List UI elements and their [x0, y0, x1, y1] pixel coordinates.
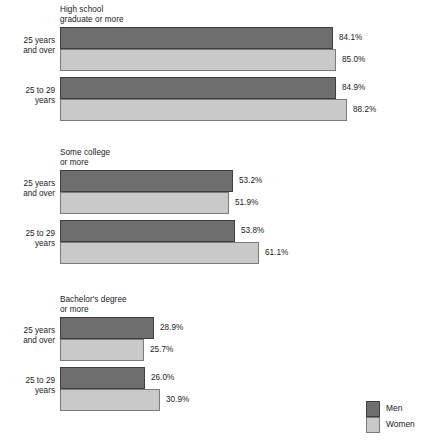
bar-value-label: 61.1%	[265, 247, 288, 258]
bar-value-label: 53.8%	[241, 225, 264, 236]
bar-value-label: 85.0%	[342, 54, 365, 65]
bar-track: 85.0%	[60, 49, 385, 71]
legend-swatch-women	[366, 417, 380, 433]
bar-track: 30.9%	[60, 389, 385, 411]
bar-men	[60, 317, 154, 339]
bar-men	[60, 220, 235, 242]
row-category-label: 25 to 29 years	[0, 229, 55, 248]
bar-value-label: 25.7%	[150, 344, 173, 355]
bar-value-label: 28.9%	[160, 322, 183, 333]
group-title: Bachelor's degree or more	[60, 295, 127, 315]
row-category-label: 25 years and over	[0, 179, 55, 198]
bar-men	[60, 170, 233, 192]
bar-women	[60, 389, 160, 411]
chart-row: 25 years and over53.2%51.9%	[0, 170, 432, 215]
chart-row: 25 years and over84.1%85.0%	[0, 27, 432, 72]
row-category-label: 25 years and over	[0, 326, 55, 345]
bar-value-label: 26.0%	[151, 372, 174, 383]
bar-women	[60, 99, 347, 121]
row-category-label: 25 to 29 years	[0, 376, 55, 395]
group-title: High school graduate or more	[60, 5, 124, 25]
group-title: Some college or more	[60, 148, 110, 168]
bar-value-label: 84.1%	[339, 32, 362, 43]
bar-track: 53.2%	[60, 170, 385, 192]
bar-track: 53.8%	[60, 220, 385, 242]
row-category-label: 25 years and over	[0, 36, 55, 55]
bar-track: 88.2%	[60, 99, 385, 121]
chart-legend: Men Women	[366, 401, 430, 433]
bar-track: 25.7%	[60, 339, 385, 361]
bar-women	[60, 242, 259, 264]
legend-swatch-men	[366, 401, 380, 417]
bar-women	[60, 192, 229, 214]
bar-track: 84.9%	[60, 77, 385, 99]
bar-men	[60, 77, 336, 99]
chart-row: 25 years and over28.9%25.7%	[0, 317, 432, 362]
bar-track: 61.1%	[60, 242, 385, 264]
bar-value-label: 88.2%	[353, 104, 376, 115]
bar-track: 84.1%	[60, 27, 385, 49]
bar-value-label: 30.9%	[166, 394, 189, 405]
bar-women	[60, 339, 144, 361]
bar-track: 26.0%	[60, 367, 385, 389]
bar-track: 28.9%	[60, 317, 385, 339]
bar-track: 51.9%	[60, 192, 385, 214]
chart-row: 25 to 29 years53.8%61.1%	[0, 220, 432, 265]
bar-men	[60, 27, 333, 49]
chart-row: 25 to 29 years84.9%88.2%	[0, 77, 432, 122]
bar-value-label: 53.2%	[239, 175, 262, 186]
bar-value-label: 84.9%	[342, 82, 365, 93]
bar-women	[60, 49, 336, 71]
legend-label-men: Men	[386, 403, 402, 414]
bar-men	[60, 367, 145, 389]
education-attainment-bar-chart: High school graduate or more25 years and…	[0, 0, 432, 447]
legend-label-women: Women	[386, 419, 415, 430]
row-category-label: 25 to 29 years	[0, 86, 55, 105]
legend-item-women: Women	[366, 417, 430, 433]
bar-value-label: 51.9%	[235, 197, 258, 208]
legend-item-men: Men	[366, 401, 430, 417]
